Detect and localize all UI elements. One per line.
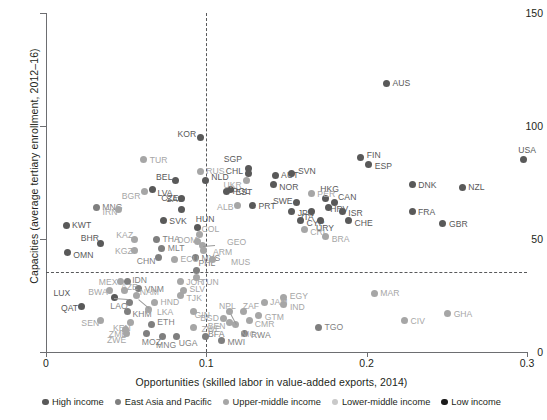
legend-item[interactable]: Lower-middle income xyxy=(332,397,430,407)
legend-swatch-icon xyxy=(42,399,49,406)
legend-item[interactable]: Upper-middle income xyxy=(223,397,321,407)
point-label: OMN xyxy=(73,251,93,260)
y-axis-label: Capacities (average tertiary enrollment,… xyxy=(28,16,40,316)
point-label: UKR xyxy=(224,181,242,190)
data-point xyxy=(141,188,148,195)
point-label: CMR xyxy=(255,320,275,329)
data-point xyxy=(140,156,147,163)
data-point xyxy=(459,184,466,191)
point-label: ZWE xyxy=(107,336,126,345)
data-point xyxy=(288,208,295,215)
point-label: CIV xyxy=(411,317,425,326)
point-label: CHN xyxy=(137,257,156,266)
point-label: AUS xyxy=(393,79,411,88)
label-leader-line xyxy=(138,299,149,309)
data-point xyxy=(439,220,446,227)
point-label: ZAF xyxy=(243,302,259,311)
y-tick-mark xyxy=(40,126,46,127)
point-label: SAU xyxy=(166,195,184,204)
y-tick-label: 100 xyxy=(509,120,543,132)
point-label: LKA xyxy=(157,308,173,317)
point-label: CAN xyxy=(338,193,356,202)
data-point xyxy=(197,168,204,175)
point-label: TJK xyxy=(187,294,202,303)
point-label: PER xyxy=(317,190,335,199)
y-axis-line xyxy=(46,13,47,353)
data-point xyxy=(345,217,352,224)
legend-item[interactable]: East Asia and Pacific xyxy=(115,397,212,407)
point-label: LUX xyxy=(53,289,70,298)
point-label: KAZ xyxy=(116,231,133,240)
data-point xyxy=(148,321,155,328)
data-point xyxy=(383,80,390,87)
point-label: CHE xyxy=(354,219,372,228)
point-label: BRA xyxy=(332,235,350,244)
data-point xyxy=(322,233,329,240)
legend-item[interactable]: Low income xyxy=(441,397,501,407)
point-label: ALB xyxy=(217,203,233,212)
point-label: NIC xyxy=(241,330,256,339)
point-label: FIN xyxy=(367,151,381,160)
point-label: HUN xyxy=(196,215,215,224)
y-tick-mark xyxy=(40,13,46,14)
data-point xyxy=(209,256,216,263)
point-label: ARM xyxy=(213,248,232,257)
x-axis-label: Opportunities (skilled labor in value-ad… xyxy=(0,376,543,388)
point-label: HND xyxy=(160,298,179,307)
point-label: SGP xyxy=(224,155,242,164)
data-point xyxy=(63,222,70,229)
point-label: GEO xyxy=(227,238,246,247)
data-point xyxy=(371,290,378,297)
data-point xyxy=(301,226,308,233)
data-point xyxy=(246,317,253,324)
x-tick-label: 0.1 xyxy=(186,357,226,369)
data-point xyxy=(315,324,322,331)
point-label: MUS xyxy=(231,258,250,267)
data-point xyxy=(243,177,250,184)
point-label: DOM xyxy=(177,236,197,245)
point-label: MAR xyxy=(380,289,399,298)
data-point xyxy=(171,256,178,263)
chart-legend: High incomeEast Asia and PacificUpper-mi… xyxy=(0,397,543,407)
point-label: TGO xyxy=(324,323,343,332)
point-label: GHA xyxy=(454,310,473,319)
y-tick-label: 150 xyxy=(509,7,543,19)
data-point xyxy=(401,317,408,324)
data-point xyxy=(261,299,268,306)
point-label: GIN xyxy=(195,311,210,320)
point-label: ECU xyxy=(181,255,199,264)
data-point xyxy=(409,181,416,188)
data-point xyxy=(202,177,209,184)
legend-label: Lower-middle income xyxy=(342,397,430,407)
point-label: BGR xyxy=(122,192,141,201)
point-label: GBR xyxy=(449,220,468,229)
point-label: ESP xyxy=(375,162,392,171)
data-point xyxy=(64,249,71,256)
point-label: FRA xyxy=(418,208,435,217)
point-label: QAT xyxy=(61,304,78,313)
data-point xyxy=(158,245,165,252)
data-point xyxy=(151,299,158,306)
horizontal-reference-line xyxy=(46,272,527,273)
data-point xyxy=(357,154,364,161)
legend-swatch-icon xyxy=(332,399,339,406)
data-point xyxy=(78,303,85,310)
point-label: ZWE xyxy=(202,325,221,334)
x-tick-label: 0.2 xyxy=(347,357,387,369)
data-point xyxy=(197,134,204,141)
point-label: BWA xyxy=(88,288,107,297)
point-label: BHR xyxy=(81,234,99,243)
point-label: NPL xyxy=(219,302,236,311)
point-label: NAM xyxy=(140,288,159,297)
legend-swatch-icon xyxy=(223,399,230,406)
data-point xyxy=(155,254,162,261)
point-label: ETH xyxy=(157,318,174,327)
point-label: NOR xyxy=(279,183,298,192)
y-tick-mark xyxy=(40,239,46,240)
point-label: EGY xyxy=(290,292,308,301)
data-point xyxy=(272,172,279,179)
data-point xyxy=(409,208,416,215)
data-point xyxy=(339,208,346,215)
legend-item[interactable]: High income xyxy=(42,397,104,407)
